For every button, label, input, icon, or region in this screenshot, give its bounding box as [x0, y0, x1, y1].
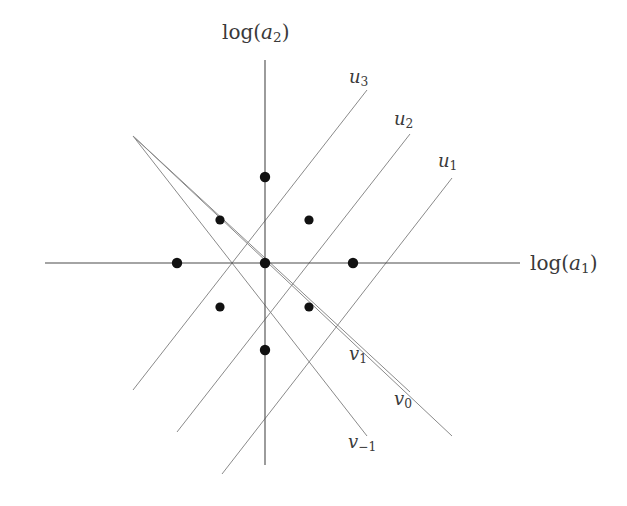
- line-u3: [133, 90, 367, 390]
- dot-west: [172, 258, 182, 268]
- line-u2: [177, 134, 410, 432]
- line-label-u3: u3: [349, 68, 368, 88]
- dot-southwest: [215, 302, 224, 311]
- x-axis-label: log(a1): [530, 253, 597, 276]
- line-label-u2: u2: [394, 110, 413, 130]
- y-axis-label: log(a2): [222, 22, 289, 45]
- dot-south: [260, 345, 270, 355]
- line-label-v1: v1: [349, 345, 367, 365]
- line-label-v0: v0: [394, 390, 412, 410]
- dot-center: [260, 258, 270, 268]
- dot-north: [260, 172, 270, 182]
- ascending-lines-group: [133, 90, 452, 474]
- lattice-diagram: log(a2) log(a1) u3u2u1v1v0v−1: [0, 0, 627, 506]
- line-label-u1: u1: [438, 152, 457, 172]
- line-v1: [133, 136, 367, 436]
- dot-east: [348, 258, 358, 268]
- dot-southeast: [304, 302, 313, 311]
- line-label-v-1: v−1: [348, 433, 376, 453]
- dot-northwest: [215, 215, 224, 224]
- line-u1: [222, 178, 452, 474]
- axes-group: [45, 60, 520, 465]
- dot-northeast: [304, 215, 313, 224]
